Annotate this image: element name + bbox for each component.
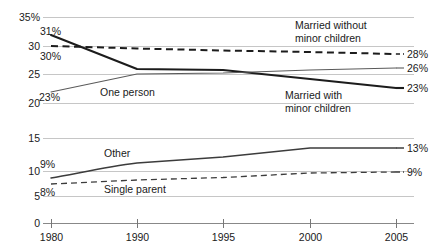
y-axis-label-10: 10 — [0, 165, 40, 177]
right-edge-leaders — [396, 54, 404, 172]
x-axis-label-1995: 1995 — [199, 231, 248, 243]
series-label-married-with-line1: Married with — [285, 89, 342, 102]
gridlines-lower — [43, 139, 414, 224]
y-axis-label-20: 20 — [0, 97, 40, 109]
series-label-married-without-line2: minor children — [295, 32, 361, 45]
series-label-married-with-line2: minor children — [285, 102, 351, 115]
y-axis-label-0: 0 — [0, 217, 40, 229]
series-line-other — [51, 148, 396, 178]
x-axis-label-2005: 2005 — [372, 231, 421, 243]
x-axis-label-1980: 1980 — [27, 231, 76, 243]
series-label-one-person: One person — [100, 86, 155, 99]
x-axis-label-2000: 2000 — [286, 231, 335, 243]
chart-figure: 35% 30 25 20 15 10 5 0 1980 1990 1995 20… — [0, 0, 430, 252]
start-value-label-23: 23% — [39, 91, 60, 103]
end-value-label-28: 28% — [407, 48, 428, 60]
y-axis-label-5: 5 — [0, 190, 40, 202]
y-axis-label-35: 35% — [0, 11, 40, 23]
start-value-label-9: 9% — [40, 158, 55, 170]
series-line-married-without-minor-children — [51, 46, 396, 54]
end-value-label-9: 9% — [407, 166, 422, 178]
end-value-label-26: 26% — [407, 62, 428, 74]
start-value-label-31: 31% — [40, 25, 61, 37]
y-axis-label-30: 30 — [0, 40, 40, 52]
end-value-label-13: 13% — [407, 142, 428, 154]
start-value-label-8: 8% — [40, 186, 55, 198]
chart-canvas — [0, 0, 430, 252]
series-label-single-parent: Single parent — [104, 183, 166, 196]
y-axis-label-15: 15 — [0, 132, 40, 144]
series-label-other: Other — [104, 147, 130, 160]
y-axis-label-25: 25 — [0, 68, 40, 80]
x-axis-label-1990: 1990 — [113, 231, 162, 243]
start-value-label-30: 30% — [40, 50, 61, 62]
series-line-single-parent — [51, 172, 396, 184]
end-value-label-23: 23% — [407, 82, 428, 94]
series-label-married-without-line1: Married without — [295, 19, 367, 32]
